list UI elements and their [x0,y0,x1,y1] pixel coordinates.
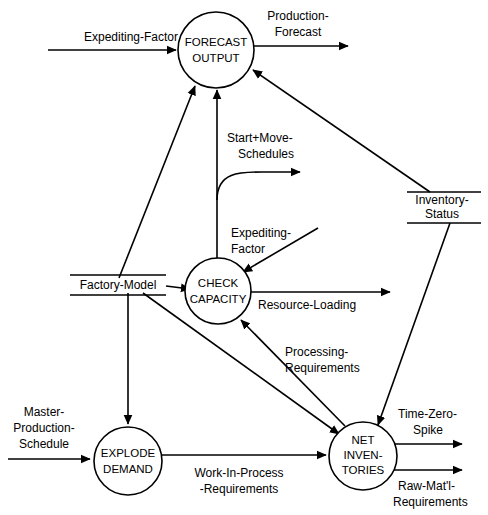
flow-label-work-in-process-requirements-line2: -Requirements [200,482,279,496]
flow-label-master-production-schedule-line2: Production- [13,421,74,435]
process-label-explode-demand-line2: DEMAND [103,463,153,475]
process-label-net-inventories-line1: NET [352,434,375,446]
flow-label-raw-matl-requirements-line1: Raw-Mat'l- [398,479,455,493]
store-label-inventory-status-line1: Inventory- [415,193,468,207]
flow-line-factory-model-to-forecast [119,86,195,278]
flow-label-work-in-process-requirements-line1: Work-In-Process [194,466,283,480]
process-label-forecast-output-line1: FORECAST [185,36,248,48]
flow-label-master-production-schedule-line1: Master- [24,405,65,419]
process-label-check-capacity-line2: CAPACITY [190,293,247,305]
flow-label-processing-requirements-line1: Processing- [285,345,348,359]
process-circle-forecast-output[interactable] [178,12,254,88]
flow-label-expediting-factor-to-capacity-line2: Factor [231,242,265,256]
data-flow-diagram: Factory-Model Inventory- Status FORECAST… [0,0,488,515]
flow-label-master-production-schedule-line3: Schedule [19,437,69,451]
flow-label-resource-loading: Resource-Loading [258,298,356,312]
flow-line-inventory-status-to-net-inventories [378,223,450,425]
flow-label-raw-matl-requirements-line2: Requirements [393,495,468,509]
process-label-net-inventories-line3: TORIES [342,464,385,476]
flow-label-processing-requirements-line2: Requirements [285,361,360,375]
flow-label-start-move-schedules-line1: Start+Move- [227,131,293,145]
dfd-canvas: Factory-Model Inventory- Status FORECAST… [0,0,488,515]
process-forecast-output[interactable]: FORECAST OUTPUT [178,12,254,88]
flow-label-production-forecast-line2: Forecast [275,25,322,39]
data-store-inventory-status: Inventory- Status [407,192,481,223]
process-label-explode-demand-line1: EXPLODE [101,447,156,459]
flow-label-expediting-factor-to-capacity-line1: Expediting- [231,226,291,240]
flow-label-production-forecast-line1: Production- [267,9,328,23]
flow-label-time-zero-spike-line2: Spike [413,423,443,437]
data-store-factory-model: Factory-Model [70,275,166,295]
process-check-capacity[interactable]: CHECK CAPACITY [185,258,251,324]
process-circle-explode-demand[interactable] [94,427,162,495]
process-explode-demand[interactable]: EXPLODE DEMAND [94,427,162,495]
flow-label-start-move-schedules-line2: Schedules [238,147,294,161]
process-label-net-inventories-line2: INVEN- [344,449,383,461]
flow-label-time-zero-spike-line1: Time-Zero- [398,407,457,421]
store-label-factory-model: Factory-Model [80,278,157,292]
process-circle-check-capacity[interactable] [185,258,251,324]
process-label-forecast-output-line2: OUTPUT [192,52,239,64]
flow-label-expediting-factor-to-forecast: Expediting-Factor [84,30,178,44]
process-net-inventories[interactable]: NET INVEN- TORIES [329,422,397,490]
store-label-inventory-status-line2: Status [425,207,459,221]
process-label-check-capacity-line1: CHECK [198,277,239,289]
flow-line-start-move-schedules-right [217,172,300,200]
